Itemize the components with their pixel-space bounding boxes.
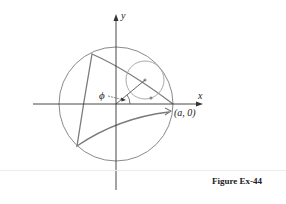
hypocycloid-diagram: y x ϕ (a, 0) [0, 0, 286, 204]
x-axis-label: x [197, 90, 203, 101]
divider [0, 170, 286, 171]
x-axis-arrow-icon [196, 102, 203, 107]
y-axis-arrow-icon [114, 14, 119, 21]
angle-label: ϕ [99, 89, 105, 101]
radius-line [116, 80, 145, 104]
angle-arc [127, 95, 130, 104]
figure-caption: Figure Ex-44 [212, 176, 262, 186]
point-label: (a, 0) [174, 107, 196, 119]
tracing-point [149, 96, 152, 99]
y-axis-label: y [120, 10, 126, 21]
